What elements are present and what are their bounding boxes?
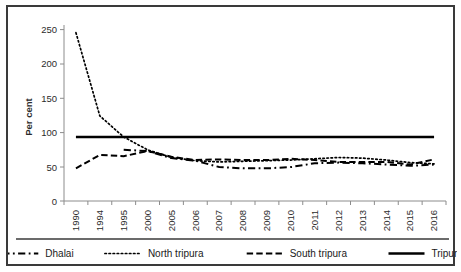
y-tick-marks xyxy=(60,30,64,201)
x-tick-label: 1990 xyxy=(70,210,81,231)
chart-frame: Per cent 250 200 150 100 50 0 xyxy=(6,5,455,266)
x-tick-label: 2007 xyxy=(213,210,224,231)
x-tick-label: 1995 xyxy=(118,210,129,231)
x-tick-label: 2005 xyxy=(166,210,177,231)
y-tick-label: 150 xyxy=(41,93,57,104)
legend-label: Dhalai xyxy=(45,248,73,259)
x-tick-label: 2016 xyxy=(428,210,439,231)
chart-legend: DhalaiNorth tripuraSouth tripuraTripura xyxy=(8,248,457,259)
x-tick-label: 2008 xyxy=(237,210,248,231)
y-tick-labels: 250 200 150 100 50 0 xyxy=(41,24,57,207)
x-tick-label: 2013 xyxy=(357,210,368,231)
series-line-north-tripura xyxy=(76,33,434,164)
x-tick-marks xyxy=(64,201,446,205)
legend-label: Tripura xyxy=(432,248,458,259)
y-tick-label: 0 xyxy=(52,196,57,207)
x-tick-label: 2011 xyxy=(309,210,320,230)
y-tick-label: 250 xyxy=(41,24,57,35)
x-tick-label: 2014 xyxy=(381,210,392,231)
x-tick-label: 1994 xyxy=(94,210,105,231)
data-series-group xyxy=(76,33,434,169)
legend-label: South tripura xyxy=(290,248,348,259)
x-tick-label: 2006 xyxy=(190,210,201,231)
x-tick-label: 2015 xyxy=(404,210,415,231)
y-axis-label: Per cent xyxy=(23,97,34,135)
y-tick-label: 100 xyxy=(41,127,57,138)
x-tick-label: 2009 xyxy=(261,210,272,231)
y-tick-label: 50 xyxy=(46,162,57,173)
x-tick-label: 2012 xyxy=(333,210,344,231)
x-tick-label: 2000 xyxy=(142,210,153,231)
y-tick-label: 200 xyxy=(41,58,57,69)
chart-figure: Per cent 250 200 150 100 50 0 xyxy=(0,0,461,272)
chart-plot-container: Per cent 250 200 150 100 50 0 xyxy=(8,7,457,268)
legend-label: North tripura xyxy=(148,248,204,259)
x-tick-label: 2010 xyxy=(285,210,296,231)
x-tick-labels: 1990199419952000200520062007200820092010… xyxy=(70,210,439,231)
line-chart-svg: Per cent 250 200 150 100 50 0 xyxy=(8,7,457,268)
